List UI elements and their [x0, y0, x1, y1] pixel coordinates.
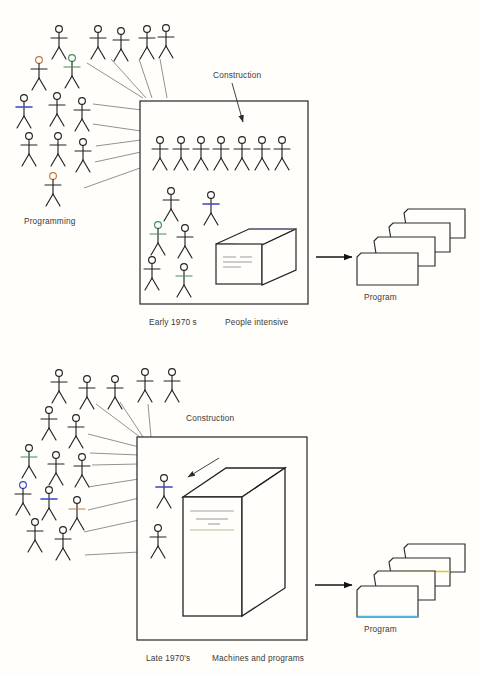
stick-figure — [139, 26, 155, 59]
stick-figure — [137, 369, 153, 402]
program-card — [389, 558, 450, 586]
inside-people-bottom — [150, 475, 172, 558]
label-construction-top: Construction — [213, 71, 261, 79]
stick-figure — [164, 369, 180, 402]
caption-top-era: Early 1970 s — [149, 318, 197, 326]
connector-lines-bottom — [84, 402, 151, 555]
stick-figure — [74, 98, 90, 131]
stick-figure — [177, 225, 193, 258]
page-background — [0, 0, 480, 676]
stick-figure — [49, 93, 65, 126]
program-card-stack-top — [357, 209, 465, 285]
program-card — [374, 237, 435, 266]
stick-figure — [69, 497, 85, 530]
inside-people-cluster-top — [144, 188, 219, 297]
stick-figure — [75, 139, 91, 172]
computer-panel-lines — [223, 257, 252, 267]
construction-callout-arrow-bottom — [188, 458, 219, 477]
construction-callout-arrow-top — [232, 83, 243, 122]
stick-figure — [41, 407, 57, 440]
small-box-computer — [216, 229, 296, 285]
stick-figure — [90, 26, 106, 59]
computer-panel-lines — [190, 511, 234, 530]
stick-figure — [152, 137, 168, 170]
diagram-canvas — [0, 0, 480, 676]
stick-figure — [176, 264, 192, 297]
inside-people-row-top — [152, 137, 290, 170]
stick-figure — [113, 28, 129, 61]
stick-figure — [213, 137, 229, 170]
stick-figure — [68, 415, 84, 448]
stick-figure — [150, 222, 166, 255]
caption-bottom-mode: Machines and programs — [212, 654, 304, 662]
stick-figure — [51, 26, 67, 59]
construction-box-bottom — [137, 437, 307, 640]
outside-people-group-bottom — [15, 369, 180, 560]
stick-figure — [193, 137, 209, 170]
connector-lines-top — [84, 59, 167, 188]
stick-figure — [64, 55, 80, 88]
stick-figure — [144, 257, 160, 290]
program-card — [389, 223, 450, 252]
stick-figure — [51, 370, 67, 403]
stick-figure — [21, 445, 37, 478]
stick-figure — [156, 475, 172, 508]
panel-late-1970s — [15, 369, 465, 640]
stick-figure — [31, 57, 47, 90]
diagram-page: Programming Construction Early 1970 s Pe… — [0, 0, 480, 676]
stick-figure — [41, 487, 57, 520]
label-program-top: Program — [364, 293, 397, 301]
stick-figure — [173, 137, 189, 170]
program-card — [374, 571, 435, 600]
stick-figure — [27, 519, 43, 552]
caption-bottom-era: Late 1970's — [146, 654, 190, 662]
caption-top-mode: People intensive — [225, 318, 288, 326]
program-card — [357, 586, 418, 617]
panel-early-1970s — [16, 25, 465, 304]
label-program-bottom: Program — [364, 625, 397, 633]
stick-figure — [74, 454, 90, 487]
label-construction-bottom: Construction — [186, 414, 234, 422]
program-card — [404, 209, 465, 238]
stick-figure — [50, 133, 66, 166]
stick-figure — [21, 133, 37, 166]
stick-figure — [16, 95, 32, 128]
stick-figure — [203, 192, 219, 225]
stick-figure — [150, 525, 166, 558]
program-card-stack-bottom — [357, 544, 465, 617]
stick-figure — [45, 173, 61, 206]
program-card — [357, 253, 418, 285]
stick-figure — [158, 25, 174, 58]
outside-people-group-top — [16, 25, 174, 206]
stick-figure — [79, 376, 95, 409]
stick-figure — [15, 482, 31, 515]
label-programming: Programming — [24, 217, 75, 225]
program-card — [404, 544, 465, 572]
stick-figure — [48, 452, 64, 485]
stick-figure — [254, 137, 270, 170]
stick-figure — [163, 188, 179, 221]
construction-box-top — [140, 101, 308, 304]
stick-figure — [107, 376, 123, 409]
tall-cabinet-computer — [183, 468, 285, 616]
stick-figure — [274, 137, 290, 170]
stick-figure — [234, 137, 250, 170]
stick-figure — [55, 527, 71, 560]
